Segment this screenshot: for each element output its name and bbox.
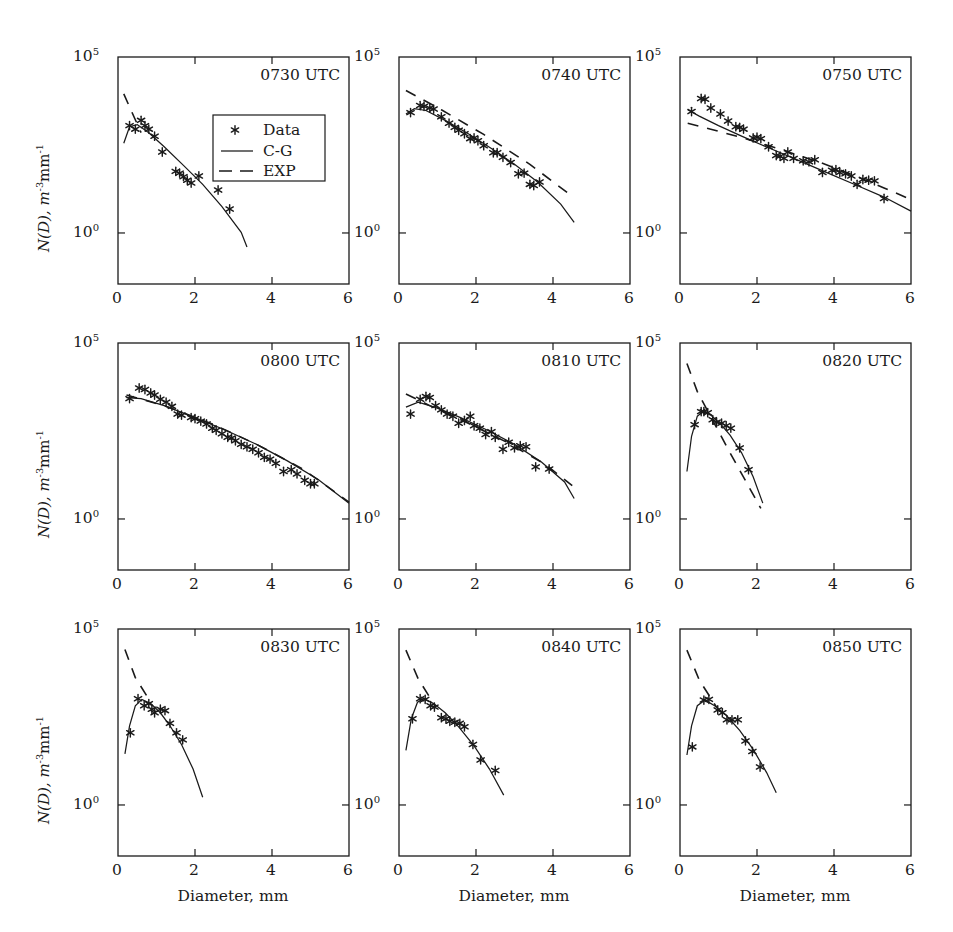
plot-panel-0800-utc: 0800 UTC	[117, 342, 350, 571]
x-tick-label: 4	[259, 575, 283, 593]
y-tick-label-bottom: 100	[354, 508, 380, 527]
panel-title: 0800 UTC	[260, 352, 340, 370]
data-markers	[688, 94, 888, 202]
y-tick-label-top: 105	[635, 46, 661, 65]
exp-fit-line	[406, 394, 572, 486]
x-tick-label: 6	[617, 861, 641, 879]
y-tick-label-top: 105	[354, 618, 380, 637]
data-markers	[126, 384, 318, 488]
x-tick-label: 0	[105, 289, 129, 307]
x-tick-label: 2	[182, 575, 206, 593]
panel-title: 0850 UTC	[822, 638, 902, 656]
axes-frame	[399, 57, 630, 284]
x-axis-label: Diameter, mm	[459, 887, 569, 905]
panel-title: 0810 UTC	[541, 352, 621, 370]
legend-label-c-g: C-G	[263, 142, 292, 160]
x-tick-label: 0	[386, 575, 410, 593]
x-tick-label: 6	[336, 861, 360, 879]
y-tick-label-top: 105	[73, 332, 99, 351]
x-tick-label: 2	[463, 861, 487, 879]
panel-title: 0740 UTC	[541, 66, 621, 84]
panel-title: 0750 UTC	[822, 66, 902, 84]
y-tick-label-bottom: 100	[354, 222, 380, 241]
x-tick-label: 6	[898, 575, 922, 593]
x-tick-label: 4	[540, 575, 564, 593]
x-tick-label: 4	[821, 575, 845, 593]
axes-frame	[680, 57, 911, 284]
x-tick-label: 4	[259, 289, 283, 307]
plot-panel-0810-utc: 0810 UTC	[398, 342, 631, 571]
plot-panel-0730-utc: 0730 UTCDataC-GEXP	[117, 56, 350, 285]
x-tick-label: 0	[667, 861, 691, 879]
x-tick-label: 2	[463, 289, 487, 307]
x-tick-label: 0	[105, 575, 129, 593]
x-tick-label: 0	[105, 861, 129, 879]
data-markers	[407, 101, 543, 189]
y-axis-label: N(D), m-3mm-1	[34, 143, 53, 251]
y-tick-label-top: 105	[635, 332, 661, 351]
cg-fit-line	[406, 699, 504, 795]
plot-panel-0840-utc: 0840 UTC	[398, 628, 631, 857]
y-tick-label-bottom: 100	[73, 508, 99, 527]
axes-frame	[399, 629, 630, 856]
axes-frame	[118, 343, 349, 570]
panel-title: 0830 UTC	[260, 638, 340, 656]
y-tick-label-bottom: 100	[635, 508, 661, 527]
y-axis-label: N(D), m-3mm-1	[34, 429, 53, 537]
panel-title: 0840 UTC	[541, 638, 621, 656]
y-tick-label-bottom: 100	[73, 222, 99, 241]
axes-frame	[680, 629, 911, 856]
x-tick-label: 6	[336, 289, 360, 307]
cg-fit-line	[687, 700, 776, 793]
exp-fit-line	[126, 395, 349, 502]
figure-root: 0730 UTCDataC-GEXP02461051000740 UTC0246…	[0, 0, 953, 932]
y-tick-label-top: 105	[354, 332, 380, 351]
cg-fit-line	[688, 110, 911, 211]
x-axis-label: Diameter, mm	[178, 887, 288, 905]
y-tick-label-bottom: 100	[635, 794, 661, 813]
legend: DataC-GEXP	[213, 115, 325, 181]
panel-title: 0730 UTC	[260, 66, 340, 84]
plot-panel-0850-utc: 0850 UTC	[679, 628, 912, 857]
x-tick-label: 2	[744, 289, 768, 307]
y-tick-label-bottom: 100	[635, 222, 661, 241]
x-tick-label: 0	[386, 289, 410, 307]
y-axis-label: N(D), m-3mm-1	[34, 715, 53, 823]
legend-label-exp: EXP	[263, 162, 296, 180]
x-tick-label: 4	[821, 861, 845, 879]
x-tick-label: 0	[386, 861, 410, 879]
x-tick-label: 2	[744, 575, 768, 593]
panel-title: 0820 UTC	[822, 352, 902, 370]
x-tick-label: 4	[540, 861, 564, 879]
x-tick-label: 4	[821, 289, 845, 307]
plot-panel-0830-utc: 0830 UTC	[117, 628, 350, 857]
y-tick-label-bottom: 100	[73, 794, 99, 813]
x-tick-label: 2	[182, 289, 206, 307]
y-tick-label-bottom: 100	[354, 794, 380, 813]
x-tick-label: 4	[540, 289, 564, 307]
exp-fit-line	[687, 363, 761, 508]
cg-fit-line	[126, 398, 349, 504]
y-tick-label-top: 105	[635, 618, 661, 637]
plot-panel-0740-utc: 0740 UTC	[398, 56, 631, 285]
x-tick-label: 0	[667, 575, 691, 593]
x-tick-label: 6	[617, 289, 641, 307]
x-tick-label: 2	[182, 861, 206, 879]
x-tick-label: 0	[667, 289, 691, 307]
axes-frame	[118, 629, 349, 856]
plot-panel-0750-utc: 0750 UTC	[679, 56, 912, 285]
x-tick-label: 6	[617, 575, 641, 593]
data-markers	[691, 407, 752, 473]
x-tick-label: 6	[336, 575, 360, 593]
x-tick-label: 2	[744, 861, 768, 879]
x-axis-label: Diameter, mm	[740, 887, 850, 905]
x-tick-label: 4	[259, 861, 283, 879]
y-tick-label-top: 105	[354, 46, 380, 65]
legend-label-data: Data	[263, 121, 300, 139]
cg-fit-line	[125, 699, 203, 797]
cg-fit-line	[406, 109, 574, 223]
cg-fit-line	[406, 402, 574, 498]
x-tick-label: 6	[898, 289, 922, 307]
data-markers	[689, 695, 764, 771]
axes-frame	[399, 343, 630, 570]
